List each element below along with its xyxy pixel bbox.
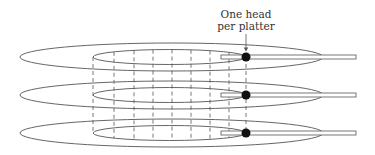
- arrow-head-icon: [244, 48, 248, 52]
- head-arm: [221, 93, 356, 97]
- head-arm: [221, 131, 356, 135]
- head-arm: [221, 55, 356, 59]
- disk-platter-diagram: [0, 0, 375, 155]
- read-write-head-icon: [242, 91, 251, 100]
- read-write-head-icon: [242, 53, 251, 62]
- annotation-label: One head per platter: [201, 8, 291, 32]
- annotation-line-1: One head: [201, 8, 291, 20]
- annotation-line-2: per platter: [201, 20, 291, 32]
- read-write-head-icon: [242, 129, 251, 138]
